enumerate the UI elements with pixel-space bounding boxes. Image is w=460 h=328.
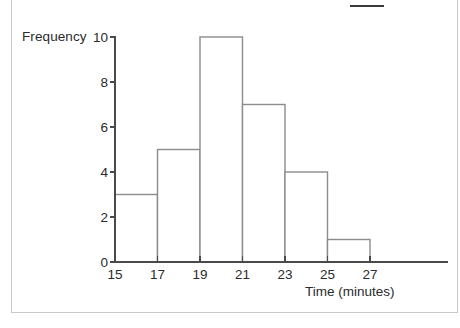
histogram-bar [115,195,158,263]
y-tick-label: 2 [100,210,108,225]
x-tick-label: 21 [235,267,250,282]
plot-area [0,0,460,328]
histogram-bar [158,150,201,263]
x-tick-label: 23 [277,267,292,282]
histogram-chart: Frequency Time (minutes) 0246810 1517192… [0,0,460,328]
x-tick-label: 27 [362,267,377,282]
y-tick-label: 10 [93,30,108,45]
histogram-bar [200,37,243,262]
x-tick-label: 17 [150,267,165,282]
y-tick-label: 4 [100,165,108,180]
histogram-bar [285,172,328,262]
histogram-bar [243,105,286,263]
bars-group [115,37,370,262]
x-tick-label: 15 [107,267,122,282]
y-tick-label: 8 [100,75,108,90]
y-tick-label: 6 [100,120,108,135]
histogram-bar [328,240,371,263]
x-tick-label: 19 [192,267,207,282]
x-tick-label: 25 [320,267,335,282]
